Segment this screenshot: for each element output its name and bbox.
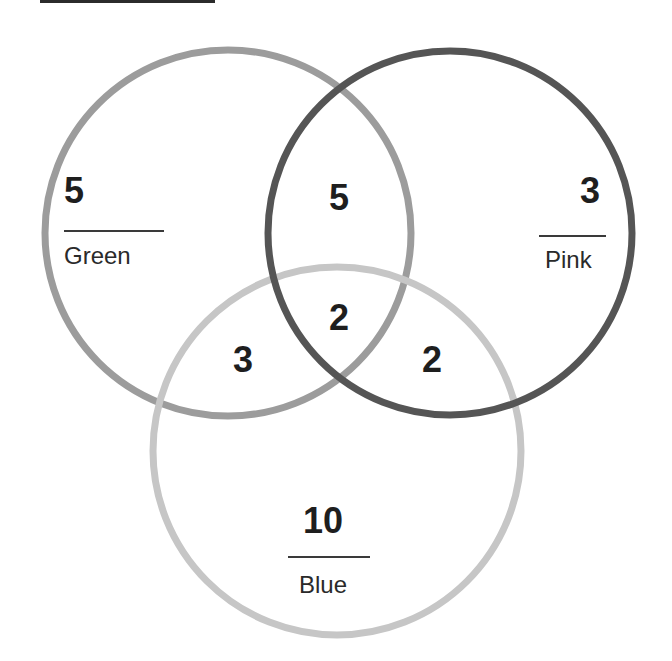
pink-circle xyxy=(268,51,632,415)
pink-only-count: 3 xyxy=(580,173,600,209)
green-pink-count: 5 xyxy=(329,180,349,216)
blue-label-rule xyxy=(288,556,370,558)
all-three-count: 2 xyxy=(329,300,349,336)
green-label: Green xyxy=(64,243,131,269)
pink-label-rule xyxy=(539,235,606,237)
green-blue-count: 3 xyxy=(233,342,253,378)
green-circle xyxy=(45,50,411,416)
pink-blue-count: 2 xyxy=(422,342,442,378)
blue-only-count: 10 xyxy=(303,503,343,539)
pink-label: Pink xyxy=(545,247,592,273)
green-only-count: 5 xyxy=(64,173,84,209)
blue-label: Blue xyxy=(299,572,347,598)
green-label-rule xyxy=(64,230,164,232)
